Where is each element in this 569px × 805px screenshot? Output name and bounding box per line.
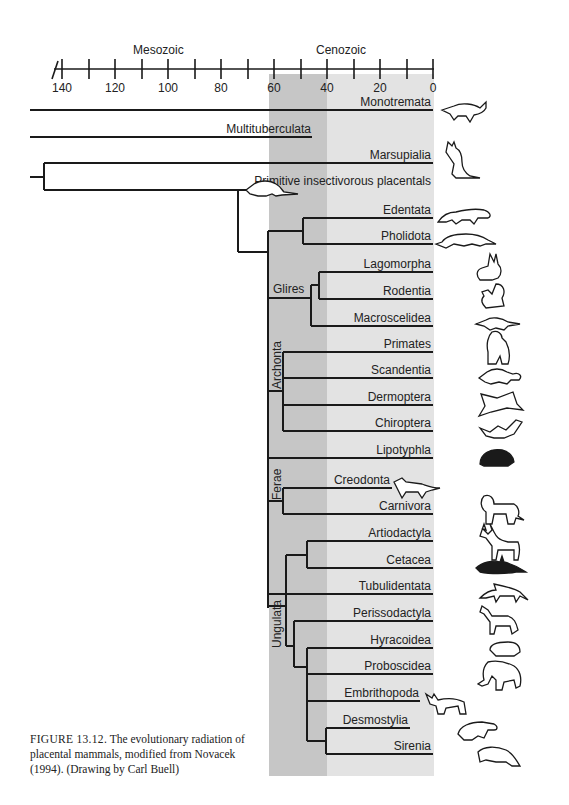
taxon-label-chiroptera: Chiroptera xyxy=(375,416,431,430)
horse-icon xyxy=(480,606,518,634)
taxon-label-perissodactyla: Perissodactyla xyxy=(353,606,431,620)
taxon-label-dermoptera: Dermoptera xyxy=(368,390,432,404)
taxon-label-cetacea: Cetacea xyxy=(386,553,431,567)
clade-label-ungulata: Ungulata xyxy=(270,600,284,648)
taxon-label-tubulidentata: Tubulidentata xyxy=(359,579,432,593)
taxon-label-hyracoidea: Hyracoidea xyxy=(370,633,431,647)
hyrax-icon xyxy=(490,642,520,656)
tick-label-40: 40 xyxy=(320,81,334,95)
taxon-label-proboscidea: Proboscidea xyxy=(364,659,431,673)
figure-number: FIGURE 13.12. xyxy=(30,733,107,745)
taxon-label-monotremata: Monotremata xyxy=(360,95,431,109)
gorilla-icon xyxy=(487,331,509,364)
taxon-label-desmostylia: Desmostylia xyxy=(343,713,409,727)
taxon-label-multituberculata: Multituberculata xyxy=(226,122,311,136)
anteater-icon xyxy=(438,209,490,224)
figure-caption: FIGURE 13.12. The evolutionary radiation… xyxy=(30,732,260,777)
phylogeny-figure: Mesozoic Cenozoic 140 120 100 80 60 40 2… xyxy=(0,0,569,805)
squirrel-icon xyxy=(482,284,504,308)
taxon-label-embrithopoda: Embrithopoda xyxy=(344,686,419,700)
colugo-icon xyxy=(479,392,523,416)
clade-label-archonta: Archonta xyxy=(270,341,284,389)
desmostylian-icon xyxy=(458,722,497,740)
taxon-label-sirenia: Sirenia xyxy=(394,739,432,753)
rabbit-icon xyxy=(477,254,501,280)
clade-label-ferae: Ferae xyxy=(270,468,284,500)
era-label-cenozoic: Cenozoic xyxy=(316,43,366,57)
hedgehog-icon xyxy=(480,450,514,466)
tick-label-100: 100 xyxy=(158,81,178,95)
taxon-label-carnivora: Carnivora xyxy=(379,499,431,513)
deer-icon xyxy=(480,524,520,560)
taxon-label-artiodactyla: Artiodactyla xyxy=(368,526,431,540)
taxon-label-lipotyphla: Lipotyphla xyxy=(376,443,431,457)
lion-icon xyxy=(481,495,524,524)
aardvark-icon xyxy=(480,584,528,602)
platypus-icon xyxy=(442,102,486,122)
pangolin-icon xyxy=(436,234,496,248)
elephant-shrew-icon xyxy=(476,318,520,330)
tick-label-120: 120 xyxy=(105,81,125,95)
bat-icon xyxy=(480,420,522,438)
tree-shrew-icon xyxy=(479,369,521,384)
taxon-label-primates: Primates xyxy=(384,337,431,351)
tick-label-60: 60 xyxy=(267,81,281,95)
taxon-label-scandentia: Scandentia xyxy=(371,363,431,377)
tick-label-140: 140 xyxy=(52,81,72,95)
axis-break-mark xyxy=(52,61,58,79)
taxon-label-creodonta: Creodonta xyxy=(334,473,390,487)
taxon-label-rodentia: Rodentia xyxy=(383,284,431,298)
manatee-icon xyxy=(478,747,520,766)
kangaroo-icon xyxy=(446,142,480,178)
taxon-label-primitive-placentals: Primitive insectivorous placentals xyxy=(254,174,431,188)
taxon-label-lagomorpha: Lagomorpha xyxy=(364,257,432,271)
tick-label-0: 0 xyxy=(430,81,437,95)
clade-label-glires: Glires xyxy=(273,282,304,296)
taxon-label-marsupialia: Marsupialia xyxy=(370,148,432,162)
tick-label-80: 80 xyxy=(214,81,228,95)
taxon-label-edentata: Edentata xyxy=(383,203,431,217)
mammoth-icon xyxy=(478,661,521,690)
taxon-label-macroscelidea: Macroscelidea xyxy=(354,311,432,325)
era-label-mesozoic: Mesozoic xyxy=(133,43,184,57)
tick-label-20: 20 xyxy=(373,81,387,95)
taxon-label-pholidota: Pholidota xyxy=(381,229,431,243)
